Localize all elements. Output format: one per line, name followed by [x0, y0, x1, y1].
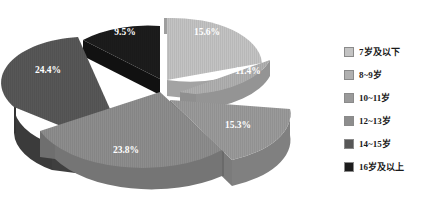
slice-label-12-13: 23.8% [113, 145, 139, 155]
pie-chart-svg: 15.6% 11.4% 15.3% 23.8% 24.4% 9.5% [0, 0, 330, 217]
legend-item-12-13[interactable]: 12~13岁 [344, 109, 429, 132]
legend-item-16plus[interactable]: 16岁及以上 [344, 155, 429, 178]
legend-item-7under[interactable]: 7岁及以下 [344, 40, 429, 63]
slice-label-8-9: 11.4% [235, 66, 261, 76]
legend-swatch-icon [344, 162, 354, 172]
legend-swatch-icon [344, 93, 354, 103]
legend-swatch-icon [344, 116, 354, 126]
legend-label: 7岁及以下 [359, 47, 400, 57]
slice-label-7under: 15.6% [194, 27, 220, 37]
legend-label: 16岁及以上 [359, 162, 404, 172]
slice-label-16plus: 9.5% [114, 27, 135, 37]
legend-label: 10~11岁 [359, 93, 390, 103]
legend-label: 8~9岁 [359, 70, 382, 80]
pie-chart-plot: 15.6% 11.4% 15.3% 23.8% 24.4% 9.5% [0, 0, 330, 217]
chart-legend: 7岁及以下 8~9岁 10~11岁 12~13岁 14~15岁 16岁及以上 [344, 40, 429, 178]
slice-label-10-11: 15.3% [225, 120, 251, 130]
legend-swatch-icon [344, 47, 354, 57]
slice-label-14-15: 24.4% [35, 65, 61, 75]
legend-item-8-9[interactable]: 8~9岁 [344, 63, 429, 86]
pie-chart-figure: 15.6% 11.4% 15.3% 23.8% 24.4% 9.5% 7岁及以下… [0, 0, 429, 217]
legend-label: 14~15岁 [359, 139, 391, 149]
legend-label: 12~13岁 [359, 116, 391, 126]
legend-swatch-icon [344, 139, 354, 149]
legend-item-10-11[interactable]: 10~11岁 [344, 86, 429, 109]
legend-item-14-15[interactable]: 14~15岁 [344, 132, 429, 155]
legend-swatch-icon [344, 70, 354, 80]
